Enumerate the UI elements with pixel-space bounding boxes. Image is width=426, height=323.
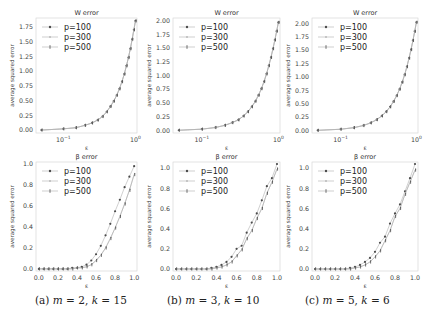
series-line-p=300 bbox=[179, 22, 279, 130]
legend-label: p=300 bbox=[201, 33, 228, 42]
y-tick-label: 0.4 bbox=[299, 225, 309, 232]
y-tick-label: 1.25 bbox=[156, 58, 170, 65]
y-tick-label: 0.50 bbox=[19, 97, 33, 104]
x-tick-label: 100 bbox=[130, 135, 141, 143]
y-tick-label: 0.8 bbox=[299, 185, 309, 192]
legend-marker-icon bbox=[49, 170, 51, 172]
legend-label: p=300 bbox=[340, 33, 367, 42]
y-axis-label: average squared error bbox=[285, 185, 292, 248]
data-point bbox=[276, 163, 278, 165]
y-tick-label: 0.8 bbox=[23, 181, 33, 188]
data-point bbox=[225, 261, 227, 263]
subplot-6: β error0.00.20.40.60.81.00.00.20.40.60.8… bbox=[285, 153, 420, 289]
x-axis-label: ε bbox=[85, 282, 88, 289]
x-tick-label: 10−1 bbox=[195, 135, 210, 143]
y-tick-label: 1.75 bbox=[19, 23, 33, 30]
data-point bbox=[104, 234, 106, 236]
legend-marker-icon bbox=[325, 36, 326, 37]
legend-marker-icon bbox=[325, 170, 327, 172]
x-axis-label: ε bbox=[85, 144, 88, 151]
y-tick-label: 0.6 bbox=[299, 205, 309, 212]
y-tick-label: 2.00 bbox=[156, 17, 170, 24]
x-tick-label: 10−1 bbox=[333, 135, 348, 143]
legend-marker-icon bbox=[325, 26, 327, 28]
legend-marker-icon bbox=[186, 170, 188, 172]
y-tick-label: 0.25 bbox=[295, 113, 309, 120]
y-tick-label: 0.75 bbox=[156, 85, 170, 92]
x-tick-label: 0.8 bbox=[390, 274, 400, 281]
y-tick-label: 1.00 bbox=[156, 72, 170, 79]
data-point bbox=[124, 186, 126, 188]
legend-label: p=100 bbox=[201, 167, 228, 176]
data-point bbox=[384, 236, 386, 238]
subplot-title: β error bbox=[216, 153, 238, 161]
data-point bbox=[389, 222, 391, 224]
x-tick-label: 1.0 bbox=[129, 274, 139, 281]
data-point bbox=[114, 210, 116, 212]
data-point bbox=[241, 245, 243, 247]
y-axis-label: average squared error bbox=[9, 185, 16, 248]
y-tick-label: 0.6 bbox=[23, 202, 33, 209]
y-tick-label: 1.0 bbox=[23, 160, 33, 167]
series-line-p=100 bbox=[318, 22, 417, 130]
y-tick-label: 0.2 bbox=[299, 245, 309, 252]
y-axis-label: average squared error bbox=[285, 44, 292, 107]
y-tick-label: 0.00 bbox=[156, 127, 170, 134]
data-point bbox=[364, 261, 366, 263]
subplot-title: W error bbox=[74, 9, 99, 17]
legend-label: p=500 bbox=[64, 187, 91, 196]
y-tick-label: 0.8 bbox=[160, 185, 170, 192]
x-tick-label: 0.0 bbox=[310, 274, 320, 281]
caption-a: (a) m = 2, k = 15 bbox=[35, 294, 127, 306]
legend-label: p=500 bbox=[340, 43, 367, 52]
subplot-title: W error bbox=[353, 9, 378, 17]
y-tick-label: 1.00 bbox=[19, 67, 33, 74]
x-tick-label: 100 bbox=[273, 135, 284, 143]
data-point bbox=[246, 232, 248, 234]
y-tick-label: 0.75 bbox=[19, 82, 33, 89]
x-tick-label: 1.0 bbox=[272, 274, 282, 281]
y-tick-label: 1.50 bbox=[156, 44, 170, 51]
y-tick-label: 0.2 bbox=[160, 245, 170, 252]
legend-marker-icon bbox=[325, 180, 326, 181]
y-tick-label: 0.50 bbox=[156, 99, 170, 106]
x-tick-label: 0.6 bbox=[370, 274, 380, 281]
legend-label: p=100 bbox=[64, 167, 91, 176]
data-point bbox=[256, 212, 258, 214]
legend-label: p=300 bbox=[64, 33, 91, 42]
y-tick-label: 0.6 bbox=[160, 205, 170, 212]
y-tick-label: 1.75 bbox=[295, 33, 309, 40]
y-tick-label: 0.25 bbox=[156, 113, 170, 120]
y-tick-label: 1.25 bbox=[19, 53, 33, 60]
data-point bbox=[235, 248, 237, 250]
x-tick-label: 0.8 bbox=[110, 274, 120, 281]
y-tick-label: 0.00 bbox=[295, 127, 309, 134]
legend-label: p=500 bbox=[340, 187, 367, 196]
series-line-p=300 bbox=[318, 22, 417, 130]
y-tick-label: 1.50 bbox=[295, 46, 309, 53]
x-tick-label: 0.2 bbox=[330, 274, 340, 281]
data-point bbox=[133, 165, 135, 167]
legend-marker-icon bbox=[186, 26, 188, 28]
y-tick-label: 2.00 bbox=[295, 20, 309, 27]
legend-marker-icon bbox=[49, 36, 50, 37]
data-point bbox=[90, 259, 92, 261]
x-axis-label: ε bbox=[363, 144, 366, 151]
y-tick-label: 0.50 bbox=[295, 100, 309, 107]
y-tick-label: 1.0 bbox=[160, 164, 170, 171]
x-tick-label: 0.0 bbox=[34, 274, 44, 281]
data-point bbox=[261, 199, 263, 201]
y-tick-label: 0.25 bbox=[19, 112, 33, 119]
figure-canvas: W error0.000.250.500.751.001.251.501.751… bbox=[0, 0, 426, 323]
data-point bbox=[266, 185, 268, 187]
y-axis-label: average squared error bbox=[146, 185, 153, 248]
x-tick-label: 0.6 bbox=[91, 274, 101, 281]
y-axis-label: average squared error bbox=[146, 44, 153, 107]
x-tick-label: 0.4 bbox=[350, 274, 360, 281]
x-tick-label: 0.6 bbox=[232, 274, 242, 281]
legend-label: p=100 bbox=[64, 23, 91, 32]
data-point bbox=[251, 221, 253, 223]
legend-label: p=500 bbox=[201, 43, 228, 52]
y-tick-label: 0.0 bbox=[160, 265, 170, 272]
y-axis-label: average squared error bbox=[9, 44, 16, 107]
